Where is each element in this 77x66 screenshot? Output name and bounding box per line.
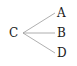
edge-c-a xyxy=(23,13,55,33)
node-b: B xyxy=(57,27,66,39)
node-a: A xyxy=(57,7,66,19)
node-c: C xyxy=(9,27,18,39)
edge-c-d xyxy=(23,33,55,53)
node-d: D xyxy=(57,47,67,59)
